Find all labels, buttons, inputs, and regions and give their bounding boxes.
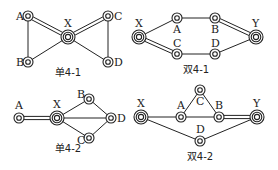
node-B: B [214,99,224,122]
node-label: X [137,97,145,110]
node-A: A [176,99,186,122]
edge-X-A [145,20,172,34]
node-label: X [53,98,61,111]
diagram-caption: 双4-2 [187,151,213,162]
node-label: B [211,23,219,36]
diagram-double-4-2: XACBYD双4-2 [134,85,264,162]
node-label: C [173,37,181,50]
node-B: B [77,88,94,104]
node-X: X [50,98,64,125]
diagram-double-4-1: XABCDY双4-1 [132,13,263,75]
diagram-caption: 双4-1 [183,64,209,75]
edge-B-X [32,41,62,60]
edge-X-D [74,41,104,60]
node-label: D [211,37,220,50]
diagram-single-4-1: ABXCD单4-1 [15,10,123,78]
node-label: X [64,17,72,30]
node-label: D [114,56,123,69]
edge-X-C [145,38,173,53]
node-D: D [106,112,126,125]
edge-B-D [93,102,107,114]
node-label: B [16,56,24,69]
edge-B-Y [219,19,250,36]
node-label: A [176,99,186,112]
node-label: Y [252,97,261,110]
node-label: C [196,95,204,108]
node-label: A [15,10,25,23]
node-B: B [16,56,33,69]
node-D: D [195,123,205,146]
node-C: C [172,37,182,59]
edge-C-D [93,121,108,134]
node-label: D [117,112,126,125]
node-X: X [132,17,146,44]
diagram-caption: 单4-1 [55,67,81,78]
diagram-single-4-2: AXBDC单4-2 [14,88,126,154]
node-B: B [210,13,220,36]
network-diagrams-canvas: ABXCD单4-1XABCDY双4-1AXBDC单4-2XACBYD双4-2 [0,0,278,170]
node-label: A [172,23,182,36]
node-D: D [210,37,220,59]
node-X: X [61,17,75,44]
node-Y: Y [249,17,263,44]
edge-A-X [24,116,50,119]
node-label: X [135,17,143,30]
node-label: A [14,99,24,112]
node-label: Y [251,17,260,30]
node-A: A [15,10,33,23]
diagram-caption: 单4-2 [55,143,81,154]
edge-X-D [147,120,195,139]
node-label: B [215,99,223,112]
node-C: C [103,10,122,23]
node-label: B [77,88,85,101]
node-C: C [195,85,205,108]
edge-D-Y [205,120,251,139]
node-A: A [14,99,24,123]
node-D: D [103,56,123,69]
node-A: A [172,13,182,36]
node-label: C [114,10,122,23]
node-label: D [196,123,205,136]
node-Y: Y [250,97,264,124]
node-X: X [134,97,148,124]
edge-X-B [63,102,85,115]
edge-X-C [73,17,104,35]
edge-D-Y [220,40,250,52]
edge-B-Y [224,115,250,118]
edge-A-X [32,17,63,35]
